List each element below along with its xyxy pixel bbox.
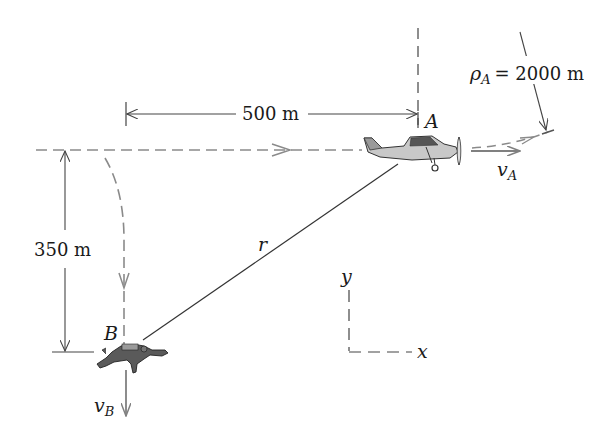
axis-y-label: y (340, 265, 352, 287)
velocity-b-label: vB (94, 394, 114, 419)
curved-path-a (472, 132, 548, 148)
flight-path-a (36, 144, 362, 156)
airplane-icon (364, 136, 461, 171)
dimension-350m: 350 m (34, 151, 94, 352)
coordinate-axes: y x (340, 265, 428, 362)
dimension-vertical-label: 350 m (34, 239, 91, 260)
velocity-a-label: vA (497, 158, 517, 183)
flight-path-b (105, 158, 129, 345)
center-tick-mark (542, 130, 554, 134)
position-vector-label: r (258, 233, 269, 255)
skydiver-icon (97, 344, 168, 373)
dimension-horizontal-label: 500 m (242, 103, 299, 124)
point-b-label: B (103, 322, 118, 344)
dimension-500m: 500 m (126, 102, 418, 128)
axis-x-label: x (417, 340, 428, 362)
kinematics-figure: 500 m 350 m r A vA ρA= 2000 m (0, 0, 615, 441)
position-vector-r (143, 164, 398, 340)
point-a-label: A (423, 110, 439, 132)
